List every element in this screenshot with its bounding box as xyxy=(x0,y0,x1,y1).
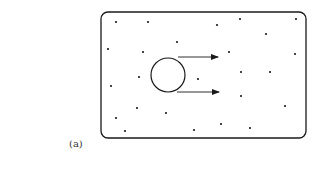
particle-dot xyxy=(138,76,140,78)
sphere-circle xyxy=(151,58,185,92)
particle-dot xyxy=(284,105,286,107)
particle-dot xyxy=(240,95,242,97)
particle-dot xyxy=(136,107,138,109)
particle-dot xyxy=(115,21,117,23)
particle-dot xyxy=(124,130,126,132)
container-box xyxy=(101,12,306,138)
particle-dot xyxy=(249,127,251,129)
particle-dot xyxy=(115,117,117,119)
particle-dot xyxy=(295,18,297,20)
particle-dot xyxy=(110,85,112,87)
diagram-canvas xyxy=(0,0,325,169)
particle-dot xyxy=(216,24,218,26)
velocity-arrows xyxy=(177,57,219,92)
particles xyxy=(107,18,297,132)
particle-dot xyxy=(197,78,199,80)
particle-dot xyxy=(176,41,178,43)
particle-dot xyxy=(265,33,267,35)
particle-dot xyxy=(220,123,222,125)
particle-dot xyxy=(193,129,195,131)
figure-label: (a) xyxy=(69,138,83,149)
particle-dot xyxy=(147,21,149,23)
particle-dot xyxy=(228,51,230,53)
particle-dot xyxy=(240,71,242,73)
particle-dot xyxy=(269,71,271,73)
particle-dot xyxy=(239,18,241,20)
particle-dot xyxy=(142,51,144,53)
particle-dot xyxy=(107,48,109,50)
particle-dot xyxy=(165,112,167,114)
particle-dot xyxy=(294,53,296,55)
